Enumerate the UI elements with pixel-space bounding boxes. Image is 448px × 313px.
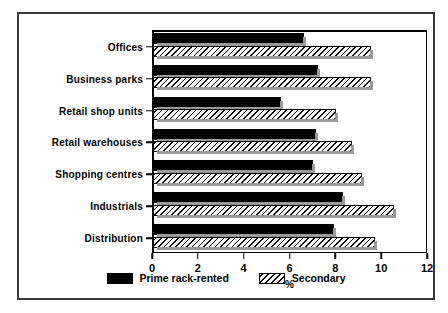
- bar-shadow-bottom: [157, 247, 377, 250]
- bar-shadow-bottom: [157, 119, 338, 122]
- bar-secondary: [153, 141, 352, 152]
- bar-prime: [153, 33, 304, 44]
- category-label: Distribution: [84, 233, 143, 244]
- category-tick: [146, 110, 152, 112]
- bar-row: Retail shop units: [152, 95, 427, 127]
- category-label: Offices: [108, 41, 143, 52]
- x-axis-tick: [197, 253, 199, 259]
- x-axis-tick: [380, 253, 382, 259]
- bar-row: Shopping centres: [152, 158, 427, 190]
- category-tick: [146, 205, 152, 207]
- category-label: Shopping centres: [55, 169, 143, 180]
- bar-shadow-bottom: [157, 56, 373, 59]
- bar-secondary: [153, 173, 362, 184]
- bar-secondary: [153, 205, 394, 216]
- bar-secondary: [153, 109, 336, 120]
- x-axis-tick: [151, 253, 153, 259]
- bar-prime: [153, 97, 281, 108]
- legend-entry: Secondary: [259, 272, 346, 284]
- bar-prime: [153, 129, 316, 140]
- legend-label: Prime rack-rented: [140, 272, 229, 284]
- x-axis-tick: [335, 253, 337, 259]
- chart-legend: Prime rack-rentedSecondary: [19, 272, 433, 284]
- bar-shadow-bottom: [157, 183, 364, 186]
- bar-row: Distribution: [152, 222, 427, 254]
- bar-row: Retail warehouses: [152, 127, 427, 159]
- bar-secondary: [153, 237, 375, 248]
- category-label: Retail warehouses: [52, 137, 143, 148]
- x-axis-tick: [426, 253, 428, 259]
- category-label: Retail shop units: [59, 105, 143, 116]
- plot-area: OfficesBusiness parksRetail shop unitsRe…: [152, 30, 427, 253]
- category-label: Industrials: [90, 201, 143, 212]
- category-label: Business parks: [66, 73, 143, 84]
- legend-entry: Prime rack-rented: [107, 272, 229, 284]
- category-tick: [146, 142, 152, 144]
- category-tick: [146, 237, 152, 239]
- bar-row: Offices: [152, 31, 427, 63]
- chart-outer-frame: OfficesBusiness parksRetail shop unitsRe…: [17, 12, 435, 300]
- bar-secondary: [153, 46, 371, 57]
- category-tick: [146, 174, 152, 176]
- bar-secondary: [153, 77, 371, 88]
- legend-swatch-solid: [107, 273, 133, 284]
- bar-shadow-bottom: [157, 87, 373, 90]
- bar-shadow-bottom: [157, 215, 396, 218]
- chart-page: OfficesBusiness parksRetail shop unitsRe…: [0, 0, 448, 313]
- bar-shadow-bottom: [157, 151, 354, 154]
- x-axis-tick: [289, 253, 291, 259]
- legend-label: Secondary: [292, 272, 346, 284]
- bar-prime: [153, 192, 343, 203]
- bar-row: Industrials: [152, 190, 427, 222]
- bar-prime: [153, 224, 334, 235]
- category-tick: [146, 78, 152, 80]
- bar-prime: [153, 160, 313, 171]
- x-axis-tick: [243, 253, 245, 259]
- legend-swatch-hatch: [259, 273, 285, 284]
- category-tick: [146, 46, 152, 48]
- bar-prime: [153, 65, 318, 76]
- bar-row: Business parks: [152, 63, 427, 95]
